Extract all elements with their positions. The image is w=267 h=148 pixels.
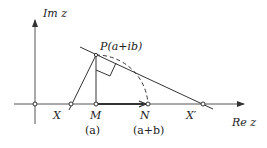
label-x-prime: X′ — [185, 109, 197, 122]
label-x: X — [52, 109, 62, 122]
origin-point — [33, 102, 37, 106]
label-m: M — [89, 109, 102, 122]
point-x-prime — [201, 102, 205, 106]
point-x — [69, 102, 73, 106]
dashed-arc — [96, 55, 148, 104]
y-axis-label: Im z — [42, 7, 67, 20]
point-n — [146, 102, 150, 106]
point-p — [94, 53, 97, 56]
right-angle-marker — [96, 63, 116, 76]
line-px-prime — [80, 47, 213, 109]
x-axis-label: Re z — [231, 116, 256, 129]
sublabel-m: (a) — [85, 124, 100, 137]
label-n: N — [139, 109, 150, 122]
complex-plane-diagram: Im z Re z P(a+ib) X M N X′ (a) (a+b) — [0, 0, 267, 148]
sublabel-n: (a+b) — [133, 124, 164, 137]
line-xp — [69, 55, 96, 110]
label-p: P(a+ib) — [99, 40, 142, 53]
point-m — [94, 102, 98, 106]
